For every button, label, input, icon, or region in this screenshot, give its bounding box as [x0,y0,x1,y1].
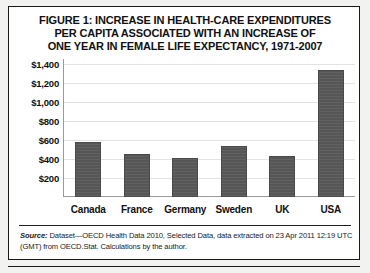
x-axis-label-canada: Canada [64,204,113,215]
y-axis-tick-label: $1,400 [7,58,59,69]
bar-sweden [221,146,247,197]
figure-title: FIGURE 1: INCREASE IN HEALTH-CARE EXPEND… [19,14,351,54]
bar-canada [75,142,101,197]
bar-france [124,154,150,197]
bar-uk [269,156,295,197]
y-axis-tick-label: $1,200 [7,77,59,88]
x-axis-label-france: France [113,204,162,215]
figure-title-line-3: ONE YEAR IN FEMALE LIFE EXPECTANCY, 1971… [19,40,351,53]
figure-title-line-1: FIGURE 1: INCREASE IN HEALTH-CARE EXPEND… [19,14,351,27]
x-axis-label-usa: USA [307,204,356,215]
bar-usa [318,70,344,197]
source-divider [19,225,351,226]
bar-series [64,59,355,197]
x-axis: CanadaFranceGermanySwedenUKUSA [64,204,355,220]
y-axis-tick-label: $400 [7,153,59,164]
x-axis-label-uk: UK [258,204,307,215]
y-axis-tick-label: $800 [7,115,59,126]
source-text: Dataset—OECD Health Data 2010, Selected … [20,231,352,251]
x-axis-label-germany: Germany [161,204,210,215]
y-axis-tick-label: $200 [7,172,59,183]
y-axis-tick-label: $600 [7,134,59,145]
source-label: Source: [20,231,47,240]
x-axis-label-sweden: Sweden [210,204,259,215]
chart-plot-area: $200$400$600$800$1,000$1,200$1,400 Canad… [9,59,361,219]
source-note: Source: Dataset—OECD Health Data 2010, S… [20,231,354,252]
bar-germany [172,158,198,197]
y-axis-tick-label: $1,000 [7,96,59,107]
figure-title-line-2: PER CAPITA ASSOCIATED WITH AN INCREASE O… [19,27,351,40]
figure-card: FIGURE 1: INCREASE IN HEALTH-CARE EXPEND… [8,6,360,260]
page-bottom-rule [8,266,360,267]
y-axis: $200$400$600$800$1,000$1,200$1,400 [9,59,63,204]
